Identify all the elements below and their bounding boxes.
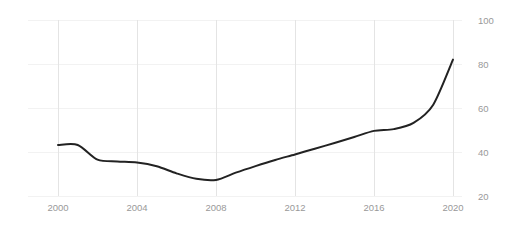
- x-tick-label-2000: 2000: [47, 202, 68, 213]
- y-tick-label-20: 20: [478, 191, 489, 202]
- y-tick-label-100: 100: [478, 15, 494, 26]
- y-tick-label-60: 60: [478, 103, 489, 114]
- line-chart: 200020042008201220162020 20406080100: [0, 0, 515, 228]
- y-axis-tick-labels: 20406080100: [478, 15, 494, 202]
- x-tick-label-2004: 2004: [126, 202, 147, 213]
- x-axis-tick-labels: 200020042008201220162020: [47, 202, 463, 213]
- chart-canvas: 200020042008201220162020 20406080100: [0, 0, 515, 228]
- y-tick-label-40: 40: [478, 147, 489, 158]
- y-tick-label-80: 80: [478, 59, 489, 70]
- x-tick-label-2008: 2008: [205, 202, 226, 213]
- x-tick-label-2016: 2016: [363, 202, 384, 213]
- data-line-series-value: [58, 60, 453, 181]
- x-tick-label-2012: 2012: [284, 202, 305, 213]
- x-tick-label-2020: 2020: [442, 202, 463, 213]
